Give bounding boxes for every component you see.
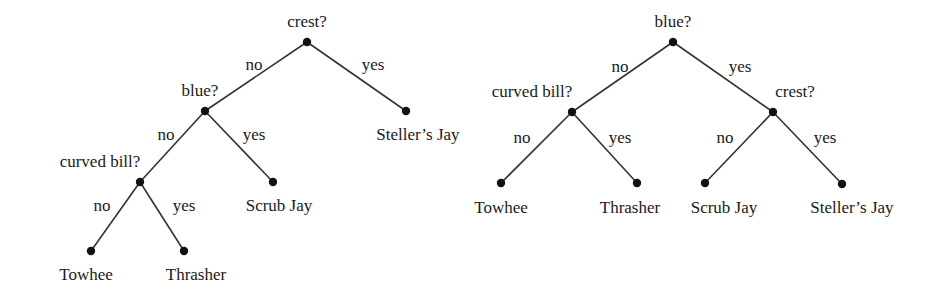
- edge-blue-scrub: [205, 111, 273, 182]
- node-dot-crest: [769, 108, 777, 116]
- edge-root-steller: [307, 42, 406, 111]
- edge-label: no: [514, 128, 531, 147]
- decision-tree-diagram: noyesnoyesnoyescrest?blue?curved bill?To…: [0, 0, 943, 298]
- edge-crest-scrub: [705, 112, 773, 183]
- edge-crest-steller: [773, 112, 842, 184]
- edge-curved-towhee: [501, 112, 572, 183]
- edge-label: yes: [362, 55, 385, 74]
- node-label-scrub: Scrub Jay: [246, 196, 313, 215]
- tree-crest-first: noyesnoyesnoyescrest?blue?curved bill?To…: [59, 12, 460, 284]
- node-dot-scrub: [701, 179, 709, 187]
- node-dot-steller: [838, 180, 846, 188]
- node-label-root: blue?: [655, 12, 692, 31]
- edge-curved-thrasher: [140, 182, 184, 251]
- node-label-curved: curved bill?: [60, 152, 141, 171]
- edge-label: yes: [729, 57, 752, 76]
- node-dot-curved: [136, 178, 144, 186]
- edge-label: yes: [243, 125, 266, 144]
- edge-root-crest: [673, 42, 773, 112]
- node-label-curved: curved bill?: [492, 82, 573, 101]
- node-label-steller: Steller’s Jay: [810, 198, 894, 217]
- node-dot-towhee: [87, 247, 95, 255]
- edge-blue-curved: [140, 111, 205, 182]
- node-dot-thrasher: [180, 247, 188, 255]
- edge-root-blue: [205, 42, 307, 111]
- node-dot-blue: [201, 107, 209, 115]
- edge-label: yes: [173, 196, 196, 215]
- edge-curved-towhee: [91, 182, 140, 251]
- node-dot-thrasher: [633, 179, 641, 187]
- edge-curved-thrasher: [572, 112, 637, 183]
- node-label-towhee: Towhee: [474, 198, 528, 217]
- node-dot-curved: [568, 108, 576, 116]
- node-dot-root: [303, 38, 311, 46]
- node-label-crest: crest?: [775, 82, 815, 101]
- edge-label: yes: [609, 128, 632, 147]
- edge-label: no: [158, 125, 175, 144]
- edge-label: no: [94, 196, 111, 215]
- node-label-steller: Steller’s Jay: [376, 125, 460, 144]
- edge-label: no: [246, 55, 263, 74]
- edge-root-curved: [572, 42, 673, 112]
- edge-label: no: [717, 128, 734, 147]
- node-dot-steller: [402, 107, 410, 115]
- node-dot-root: [669, 38, 677, 46]
- node-label-thrasher: Thrasher: [600, 198, 661, 217]
- node-label-scrub: Scrub Jay: [691, 198, 758, 217]
- node-dot-scrub: [269, 178, 277, 186]
- node-label-towhee: Towhee: [59, 265, 113, 284]
- edge-label: no: [612, 57, 629, 76]
- node-label-root: crest?: [287, 12, 327, 31]
- node-label-blue: blue?: [182, 81, 219, 100]
- edge-label: yes: [814, 128, 837, 147]
- node-label-thrasher: Thrasher: [166, 265, 227, 284]
- tree-blue-first: noyesnoyesnoyesblue?curved bill?crest?To…: [474, 12, 894, 217]
- node-dot-towhee: [497, 179, 505, 187]
